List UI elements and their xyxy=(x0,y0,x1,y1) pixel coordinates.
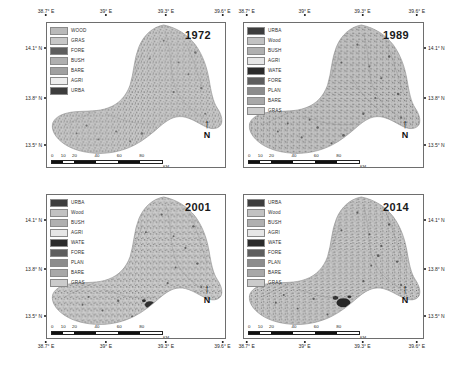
longitude-axis-top-1989: 38.7° E 39° E 39.3° E 39.6° E xyxy=(243,8,424,22)
scalebar-number: 80 xyxy=(336,153,341,158)
scalebar-unit: KM xyxy=(360,164,366,168)
lon-tick: 39.3° E xyxy=(158,8,174,16)
lat-tick: 14.1° N xyxy=(25,45,46,51)
lat-tick: 13.5° N xyxy=(424,313,445,319)
scalebar-unit: KM xyxy=(163,335,169,339)
legend-item: FORE xyxy=(50,248,85,258)
legend-label: Wood xyxy=(71,209,84,217)
north-arrow-glyph-icon: ↑ xyxy=(204,117,211,130)
legend-label: URBA xyxy=(71,199,85,207)
lon-tick: 38.7° E xyxy=(238,341,254,349)
legend-label: AGRI xyxy=(268,229,280,237)
legend-item: BUSH xyxy=(50,218,85,228)
legend-item: BUSH xyxy=(247,218,282,228)
legend-item: FORE xyxy=(247,76,282,86)
scalebar-number: 0 xyxy=(51,324,53,329)
legend-swatch xyxy=(247,77,265,85)
legend-label: URBA xyxy=(71,87,85,95)
legend-swatch xyxy=(247,259,265,267)
legend-label: BUSH xyxy=(71,219,85,227)
legend-label: BARE xyxy=(268,97,281,105)
legend-label: Wood xyxy=(268,209,281,217)
scale-bar-2001: 0 10 20 40 60 80 KM xyxy=(51,324,163,335)
legend-swatch xyxy=(247,67,265,75)
scalebar-number: 0 xyxy=(248,153,250,158)
legend-swatch xyxy=(50,199,68,207)
scalebar-number: 20 xyxy=(72,324,77,329)
legend-label: FORE xyxy=(71,249,85,257)
lon-tick: 39° E xyxy=(298,341,310,349)
north-arrow-glyph-icon: ↑ xyxy=(402,282,409,295)
legend-item: GRAS xyxy=(50,36,87,46)
legend-label: BUSH xyxy=(268,219,282,227)
legend-item: BARE xyxy=(247,268,282,278)
lon-tick: 39.3° E xyxy=(158,341,174,349)
legend-item: Wood xyxy=(247,208,282,218)
scalebar-number: 10 xyxy=(258,324,263,329)
legend-item: PLAN xyxy=(247,86,282,96)
scalebar-number: 40 xyxy=(94,324,99,329)
lon-tick: 39.6° E xyxy=(214,341,230,349)
legend-item: PLAN xyxy=(247,258,282,268)
scalebar-number: 60 xyxy=(117,153,122,158)
legend-label: GRAS xyxy=(268,279,282,287)
legend-swatch xyxy=(50,259,68,267)
lat-tick: 13.5° N xyxy=(25,142,46,148)
legend-swatch xyxy=(50,37,68,45)
legend-label: FORE xyxy=(268,249,282,257)
scalebar-number: 0 xyxy=(51,153,53,158)
legend-item: BARE xyxy=(50,66,87,76)
scalebar-number: 80 xyxy=(139,324,144,329)
legend-label: PLAN xyxy=(268,259,281,267)
north-arrow-letter: N xyxy=(402,295,409,306)
scalebar-number: 0 xyxy=(248,324,250,329)
legend-swatch xyxy=(50,269,68,277)
scalebar-unit: KM xyxy=(360,335,366,339)
legend-swatch xyxy=(50,279,68,287)
north-arrow-2014: ↑ N xyxy=(397,282,413,316)
north-arrow-2001: ↑ N xyxy=(199,282,215,316)
legend-swatch xyxy=(50,219,68,227)
legend-label: GRAS xyxy=(268,107,282,115)
legend-item: BUSH xyxy=(247,46,282,56)
legend-2014: URBA Wood BUSH AGRI WATE xyxy=(247,198,282,288)
lon-tick: 39° E xyxy=(298,8,310,16)
legend-swatch xyxy=(247,87,265,95)
legend-swatch xyxy=(50,27,68,35)
legend-swatch xyxy=(50,249,68,257)
legend-item: URBA xyxy=(50,198,85,208)
legend-item: FORE xyxy=(50,46,87,56)
longitude-axis-bottom-2001: 38.7° E 39° E 39.3° E 39.6° E xyxy=(46,341,226,355)
lat-tick: 14.1° N xyxy=(424,217,445,223)
scalebar-number: 40 xyxy=(291,324,296,329)
scalebar-number: 80 xyxy=(139,153,144,158)
four-panel-map-figure: 38.7° E 39° E 39.3° E 39.6° E 14.1° N 13… xyxy=(0,0,470,371)
legend-swatch xyxy=(247,199,265,207)
legend-item: BARE xyxy=(50,268,85,278)
scale-bar-1972: 0 10 20 40 60 80 KM xyxy=(51,153,163,164)
legend-swatch xyxy=(247,249,265,257)
legend-item: URBA xyxy=(247,26,282,36)
legend-label: BARE xyxy=(268,269,281,277)
scalebar-bar xyxy=(248,331,360,335)
legend-item: FORE xyxy=(247,248,282,258)
legend-swatch xyxy=(50,67,68,75)
scalebar-number: 40 xyxy=(94,153,99,158)
scale-bar-1989: 0 10 20 40 60 80 KM xyxy=(248,153,360,164)
legend-swatch xyxy=(50,57,68,65)
scale-bar-2014: 0 10 20 40 60 80 KM xyxy=(248,324,360,335)
scalebar-bar xyxy=(51,331,163,335)
lon-tick: 38.7° E xyxy=(38,8,54,16)
legend-item: GRAS xyxy=(247,106,282,116)
legend-item: WATE xyxy=(50,238,85,248)
legend-2001: URBA Wood BUSH AGRI WATE xyxy=(50,198,85,288)
legend-label: WATE xyxy=(268,67,282,75)
legend-swatch xyxy=(50,209,68,217)
legend-item: Wood xyxy=(50,208,85,218)
lon-tick: 39° E xyxy=(100,8,112,16)
map-frame-1972: 1972 WOOD GRAS FORE BUSH xyxy=(46,22,226,168)
latitude-axis-left-2001: 14.1° N 13.8° N 13.5° N xyxy=(0,194,46,339)
legend-label: FORE xyxy=(268,77,282,85)
map-panel-1972: 38.7° E 39° E 39.3° E 39.6° E 14.1° N 13… xyxy=(0,0,235,186)
legend-swatch xyxy=(247,97,265,105)
